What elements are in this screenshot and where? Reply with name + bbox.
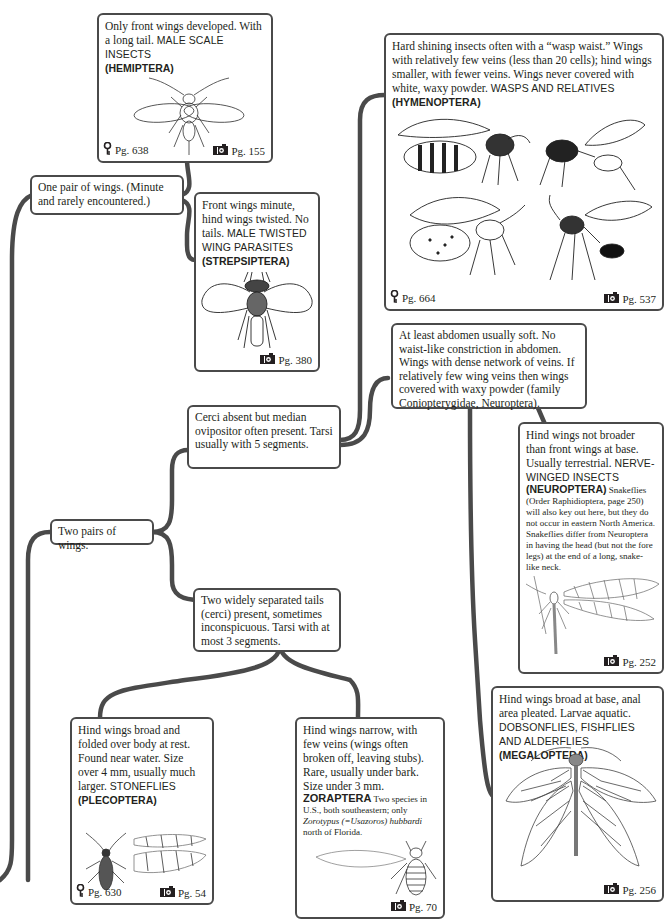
lacewing-illustration <box>524 574 662 656</box>
couplet-two-pairs-of-wings: Two pairs of wings. <box>50 519 154 545</box>
hemiptera-photo-page[interactable]: Pg. 155 <box>213 144 265 158</box>
hymenoptera-key-page[interactable]: Pg. 664 <box>390 290 436 306</box>
camera-icon <box>604 655 619 669</box>
neuroptera-note: (NEUROPTERA) Snakeflies (Order Raphidiop… <box>526 484 656 573</box>
dobsonfly-illustration <box>501 746 659 878</box>
hymenoptera-description: Hard shining insects often with a “wasp … <box>392 39 656 95</box>
wasp-illustrations <box>390 115 658 285</box>
camera-icon <box>391 900 406 914</box>
twisted-wing-parasite-illustration <box>200 270 314 352</box>
key-icon <box>103 142 112 158</box>
strepsiptera-description: Front wings minute, hind wings twisted. … <box>202 198 312 254</box>
camera-icon <box>260 353 275 367</box>
camera-icon <box>604 883 619 897</box>
result-box-megaloptera: Hind wings broad at base, anal area plea… <box>491 686 664 902</box>
camera-icon <box>160 886 175 900</box>
key-icon <box>76 884 85 900</box>
zorapteran-illustration <box>311 839 441 899</box>
hemiptera-key-page[interactable]: Pg. 638 <box>103 142 149 158</box>
result-box-hymenoptera: Hard shining insects often with a “wasp … <box>384 33 664 311</box>
couplet-cerci-absent: Cerci absent but median ovipositor often… <box>187 405 341 469</box>
hymenoptera-order: (HYMENOPTERA) <box>392 95 656 109</box>
camera-icon <box>213 144 228 158</box>
result-box-hemiptera: Only front wings developed. With a long … <box>97 13 273 163</box>
hymenoptera-photo-page[interactable]: Pg. 537 <box>604 292 656 306</box>
result-box-plecoptera: Hind wings broad and folded over body at… <box>70 717 214 905</box>
camera-icon <box>604 292 619 306</box>
hemiptera-order: (HEMIPTERA) <box>105 61 265 75</box>
couplet-soft-abdomen: At least abdomen usually soft. No waist-… <box>391 323 587 409</box>
plecoptera-photo-page[interactable]: Pg. 54 <box>160 886 206 900</box>
result-box-neuroptera: Hind wings not broader than front wings … <box>518 422 664 674</box>
plecoptera-key-page[interactable]: Pg. 630 <box>76 884 122 900</box>
strepsiptera-photo-page[interactable]: Pg. 380 <box>260 353 312 367</box>
plecoptera-description: Hind wings broad and folded over body at… <box>78 723 206 793</box>
neuroptera-photo-page[interactable]: Pg. 252 <box>604 655 656 669</box>
result-box-strepsiptera: Front wings minute, hind wings twisted. … <box>194 192 320 372</box>
zoraptera-description: Hind wings narrow, with few veins (wings… <box>303 723 437 793</box>
result-box-zoraptera: Hind wings narrow, with few veins (wings… <box>295 717 445 919</box>
key-icon <box>390 290 399 306</box>
strepsiptera-order: (STREPSIPTERA) <box>202 254 312 268</box>
plecoptera-order: (PLECOPTERA) <box>78 793 206 807</box>
couplet-two-tails: Two widely separated tails (cerci) prese… <box>193 588 341 652</box>
zoraptera-note: ZORAPTERA Two species in U.S., both sout… <box>303 793 437 838</box>
stonefly-illustration <box>76 831 210 891</box>
hemiptera-description: Only front wings developed. With a long … <box>105 19 265 61</box>
couplet-one-pair-of-wings: One pair of wings. (Minute and rarely en… <box>30 175 184 215</box>
megaloptera-photo-page[interactable]: Pg. 256 <box>604 883 656 897</box>
neuroptera-description: Hind wings not broader than front wings … <box>526 428 656 484</box>
zoraptera-photo-page[interactable]: Pg. 70 <box>391 900 437 914</box>
